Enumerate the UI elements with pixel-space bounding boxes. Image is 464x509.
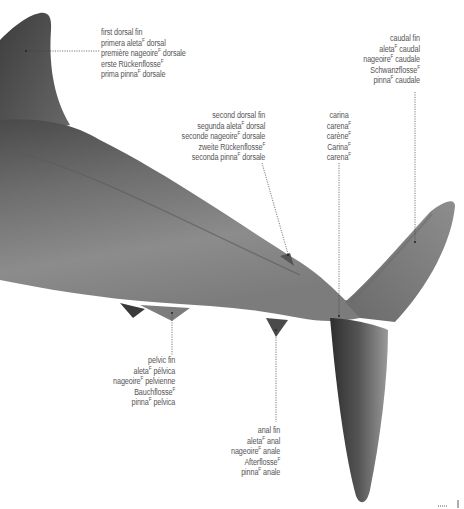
label-carina: carina carenaF carèneF CarinaF carenaF — [321, 110, 357, 163]
label-es: segunda aletaF dorsal — [181, 121, 265, 132]
label-fr: première nageoireF dorsale — [101, 48, 186, 59]
label-de: BauchflosseF — [113, 387, 175, 398]
label-it: carenaF — [321, 152, 357, 163]
caudal-upper-lobe-shape — [345, 201, 455, 322]
label-en: carina — [321, 110, 357, 121]
label-caudal-fin: caudal fin aletaF caudal nageoireF cauda… — [363, 33, 420, 86]
label-fr: nageoireF anale — [231, 446, 280, 457]
label-de: AfterflosseF — [231, 457, 280, 468]
label-es: aletaF pélvica — [113, 366, 175, 377]
label-pelvic-fin: pelvic fin aletaF pélvica nageoireF pelv… — [113, 355, 175, 408]
label-en: second dorsal fin — [181, 110, 265, 121]
label-de: erste RückenflosseF — [101, 59, 186, 70]
label-de: zweite RückenflosseF — [181, 142, 265, 153]
label-es: carenaF — [321, 121, 357, 132]
label-en: caudal fin — [363, 33, 420, 44]
body-shape — [0, 120, 360, 321]
corner-mark — [438, 500, 458, 508]
label-it: pinnaF caudale — [363, 75, 420, 86]
label-it: pinnaF pelvica — [113, 397, 175, 408]
label-en: pelvic fin — [113, 355, 175, 366]
pelvic-fin-shape-2 — [140, 305, 190, 321]
label-it: prima pinnaF dorsale — [101, 69, 186, 80]
caudal-lower-lobe-shape — [330, 318, 388, 502]
anal-fin-shape — [266, 318, 288, 337]
shark-diagram: first dorsal fin primera aletaF dorsal p… — [0, 0, 464, 509]
label-it: seconda pinnaF dorsale — [181, 152, 265, 163]
label-fr: carèneF — [321, 131, 357, 142]
label-fr: nageoireF pelvienne — [113, 376, 175, 387]
label-es: aletaF anal — [231, 436, 280, 447]
label-fr: nageoireF caudale — [363, 54, 420, 65]
label-en: anal fin — [231, 425, 280, 436]
label-second-dorsal-fin: second dorsal fin segunda aletaF dorsal … — [181, 110, 265, 163]
label-anal-fin: anal fin aletaF anal nageoireF anale Aft… — [231, 425, 280, 478]
label-fr: seconde nageoireF dorsale — [181, 131, 265, 142]
label-es: primera aletaF dorsal — [101, 38, 186, 49]
label-it: pinnaF anale — [231, 467, 280, 478]
label-first-dorsal-fin: first dorsal fin primera aletaF dorsal p… — [101, 27, 186, 80]
label-de: CarinaF — [321, 142, 357, 153]
